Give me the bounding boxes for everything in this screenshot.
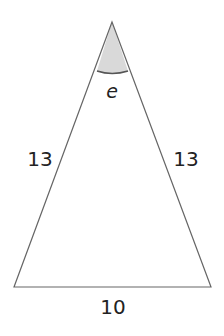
left-side-label: 13 (27, 147, 52, 171)
triangle-diagram: e 13 13 10 (0, 0, 224, 336)
angle-shading (97, 22, 128, 74)
base-label: 10 (100, 295, 125, 319)
right-side-label: 13 (173, 147, 198, 171)
angle-label: e (106, 80, 118, 102)
